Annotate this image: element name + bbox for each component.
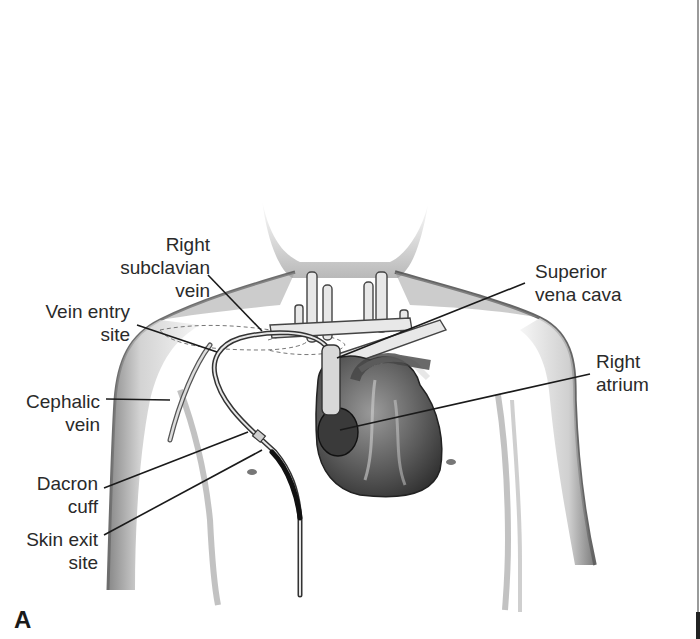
label-vein-entry-site: Vein entry site <box>20 300 130 346</box>
panel-letter: A <box>14 606 31 634</box>
label-dacron-cuff: Dacron cuff <box>0 472 98 518</box>
label-superior-vena-cava: Superior vena cava <box>535 260 622 306</box>
label-skin-exit-site: Skin exit site <box>0 528 98 574</box>
label-right-atrium: Right atrium <box>596 350 649 396</box>
label-right-subclavian-vein: Right subclavian vein <box>120 233 210 302</box>
page-edge-mark <box>696 612 700 639</box>
page-edge-line <box>697 0 699 639</box>
label-cephalic-vein: Cephalic vein <box>0 390 100 436</box>
catheter <box>170 333 332 595</box>
